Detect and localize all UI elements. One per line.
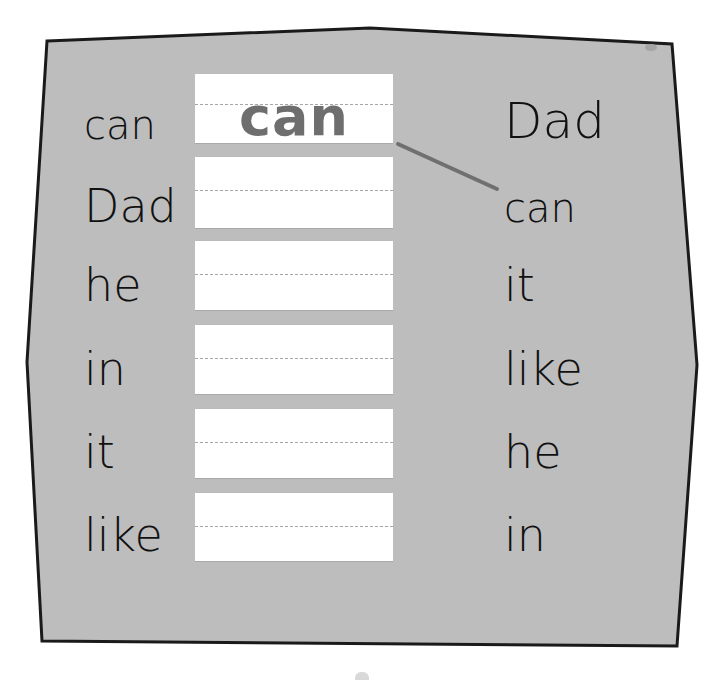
midline-dash [195,442,393,443]
page-edge-mark [355,672,369,680]
left-word-5: it [84,429,115,475]
right-word-2[interactable]: can [504,188,576,228]
right-word-3[interactable]: it [504,262,535,308]
writing-box-3[interactable] [195,241,393,310]
midline-dash [195,358,393,359]
left-word-6: like [84,512,163,558]
right-word-5[interactable]: he [504,429,561,475]
writing-box-5[interactable] [195,409,393,478]
left-word-3: he [84,262,141,308]
writing-box-2[interactable] [195,157,393,228]
left-word-4: in [84,346,126,392]
right-word-1[interactable]: Dad [504,96,605,146]
writing-box-1[interactable]: can [195,74,393,143]
smudge-mark [645,44,657,51]
right-word-6[interactable]: in [504,512,546,558]
written-answer: can [195,90,393,144]
writing-box-6[interactable] [195,493,393,561]
left-word-2: Dad [84,183,177,229]
writing-box-4[interactable] [195,325,393,394]
right-word-4[interactable]: like [504,346,583,392]
midline-dash [195,190,393,191]
midline-dash [195,274,393,275]
left-word-1: can [84,105,156,145]
midline-dash [195,526,393,527]
